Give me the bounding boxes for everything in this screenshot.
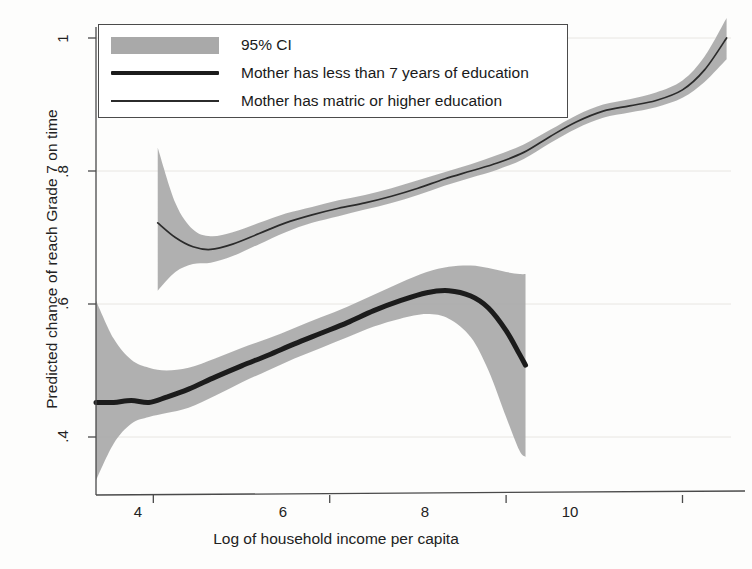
- legend-swatch-band: [111, 37, 229, 54]
- legend-swatch-thick-line: [111, 71, 229, 76]
- chart-figure: 1 .8 .6 .4 4 6 8 10 Predicted chance of …: [0, 0, 752, 569]
- x-axis-line: [96, 491, 745, 495]
- legend-label: 95% CI: [229, 36, 292, 54]
- x-axis-title: Log of household income per capita: [96, 530, 576, 548]
- x-tick-label: 4: [118, 503, 158, 520]
- y-tick-label: 1: [54, 19, 71, 59]
- legend-item-high-education: Mother has matric or higher education: [107, 87, 559, 115]
- legend-swatch-thin-line: [111, 100, 229, 102]
- legend-label: Mother has matric or higher education: [229, 92, 502, 110]
- legend-label: Mother has less than 7 years of educatio…: [229, 64, 529, 82]
- x-tick-label: 6: [263, 503, 303, 520]
- y-axis-title: Predicted chance of reach Grade 7 on tim…: [43, 59, 61, 459]
- legend-item-low-education: Mother has less than 7 years of educatio…: [107, 59, 559, 87]
- x-tick-label: 10: [550, 503, 590, 520]
- legend: 95% CI Mother has less than 7 years of e…: [98, 24, 568, 118]
- legend-item-ci: 95% CI: [107, 31, 559, 59]
- x-tick-label: 8: [405, 503, 445, 520]
- confidence-band: [96, 265, 526, 480]
